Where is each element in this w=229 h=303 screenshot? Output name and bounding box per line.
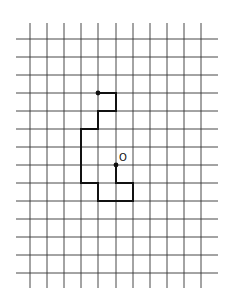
grid-diagram (0, 0, 229, 303)
bold-path (81, 91, 133, 201)
origin-label: O (119, 152, 127, 163)
origin-dot (114, 163, 119, 168)
start-dot (96, 91, 101, 96)
grid-lines (16, 23, 218, 288)
